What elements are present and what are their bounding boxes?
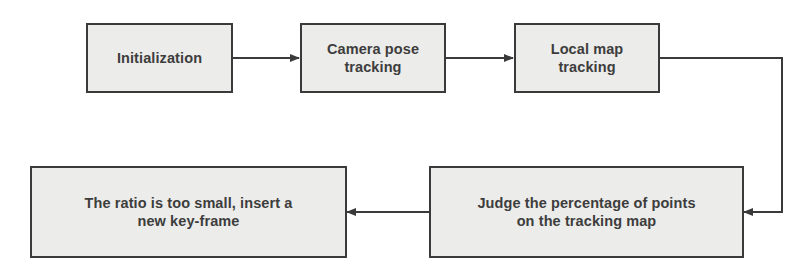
node-initialization-label: Initialization <box>117 49 202 67</box>
node-judge-percentage-label: Judge the percentage of points on the tr… <box>477 194 695 230</box>
node-camera-pose-tracking: Camera pose tracking <box>300 23 446 93</box>
node-local-map-tracking: Local map tracking <box>514 23 660 93</box>
node-judge-percentage: Judge the percentage of points on the tr… <box>429 166 744 258</box>
node-local-map-tracking-label: Local map tracking <box>551 40 624 76</box>
node-insert-keyframe-label: The ratio is too small, insert a new key… <box>85 194 293 230</box>
node-initialization: Initialization <box>86 23 233 93</box>
node-insert-keyframe: The ratio is too small, insert a new key… <box>30 166 347 258</box>
node-camera-pose-tracking-label: Camera pose tracking <box>327 40 419 76</box>
